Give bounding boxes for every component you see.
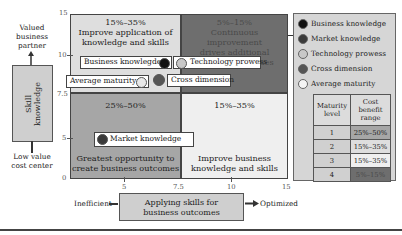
legend-label: Cross dimension <box>311 64 372 73</box>
legend-dot-icon <box>298 64 308 74</box>
x-axis-right-label: Optimized <box>260 199 298 208</box>
range-cell: 5%–15% <box>351 168 391 182</box>
point-label: Market knowledge <box>110 134 181 143</box>
x-box-line-1: Applying skills for <box>145 198 218 207</box>
x-tick-mark <box>124 177 125 182</box>
skill-knowledge-box: Skill knowledge <box>12 65 53 142</box>
arrow-up-icon <box>27 51 35 66</box>
x-tick: 15 <box>282 183 291 191</box>
range-cell: 25%–50% <box>351 126 391 140</box>
point-label: Business knowlegde <box>84 57 161 66</box>
maturity-level-cell: 3 <box>314 154 351 168</box>
y-axis-bottom-label: Low value cost center <box>4 152 60 170</box>
range-cell: 15%–35% <box>351 140 391 154</box>
header-text: range <box>351 114 390 122</box>
bottom-divider <box>0 229 402 231</box>
point-average-maturity: Average maturity <box>66 75 149 88</box>
y-top-line-2: business <box>6 32 58 41</box>
y-tick: 0 <box>62 174 66 182</box>
point-market-knowledge: Market knowledge <box>94 132 194 147</box>
x-tick: 7.5 <box>173 183 184 191</box>
y-bottom-line-1: Low value <box>4 152 60 161</box>
skill-knowledge-label: Skill knowledge <box>24 82 42 126</box>
y-top-line-1: Valued <box>6 23 58 32</box>
quadrant-text: Continuous improvement <box>182 27 287 47</box>
average-maturity-dot <box>136 77 147 88</box>
legend-dot-icon <box>298 34 308 44</box>
legend-label: Technology prowess <box>311 49 386 58</box>
point-business-knowledge: Business knowlegde <box>80 56 172 69</box>
quadrant-text: knowledge and skills <box>182 163 287 173</box>
maturity-matrix: 15%–35% Improve application of knowledge… <box>70 14 288 179</box>
header-text: Cost <box>351 98 390 106</box>
legend-item-business-knowledge: Business knowledge <box>298 18 386 29</box>
cross-dimension-dot <box>153 74 165 86</box>
y-bottom-line-2: cost center <box>4 161 60 170</box>
maturity-level-cell: 2 <box>314 140 351 154</box>
business-knowledge-dot <box>159 58 170 69</box>
header-cost-benefit: Cost benefit range <box>351 95 391 126</box>
y-tick: 15 <box>59 9 68 17</box>
legend-label: Average maturity <box>311 79 375 88</box>
skill-label-1: Skill <box>24 82 33 126</box>
table-row: 4 5%–15% <box>314 168 391 182</box>
arrow-right-icon <box>245 199 259 208</box>
legend-dot-icon <box>298 19 308 29</box>
legend-item-market-knowledge: Market knowledge <box>298 33 380 44</box>
y-tick-mark <box>67 55 73 56</box>
point-cross-dimension: Cross dimension <box>167 74 231 87</box>
quadrant-text: knowledge and skills <box>71 37 180 47</box>
point-label: Cross dimension <box>171 75 234 84</box>
point-label: Average maturity <box>70 76 136 85</box>
point-label: Technology prowess <box>190 57 267 66</box>
y-tick: 5 <box>62 134 66 142</box>
quadrant-text: Improve application of <box>71 27 180 37</box>
point-technology-prowess: Technology prowess <box>173 56 261 69</box>
maturity-level-cell: 4 <box>314 168 351 182</box>
quadrant-range: 5%–15% <box>182 17 287 27</box>
header-maturity-level: Maturity level <box>314 95 351 126</box>
quadrant-range: 15%–35% <box>182 100 287 110</box>
legend-label: Market knowledge <box>311 34 380 43</box>
y-tick: 7.5 <box>57 90 68 98</box>
legend-item-technology-prowess: Technology prowess <box>298 48 386 59</box>
quadrant-range: 15%–35% <box>71 17 180 27</box>
range-cell: 15%–35% <box>351 154 391 168</box>
quadrant-bottom-right: 15%–35% Improve business knowledge and s… <box>181 93 288 179</box>
x-tick-mark <box>231 177 232 182</box>
skill-label-2: knowledge <box>33 82 42 126</box>
maturity-level-cell: 1 <box>314 126 351 140</box>
table-row: 3 15%–35% <box>314 154 391 168</box>
legend-label: Business knowledge <box>311 19 386 28</box>
legend-item-cross-dimension: Cross dimension <box>298 63 372 74</box>
legend-dot-icon <box>298 79 308 89</box>
legend-dot-icon <box>298 49 308 59</box>
header-text: benefit <box>351 106 390 114</box>
y-tick: 10 <box>58 51 67 59</box>
x-tick: 10 <box>227 183 236 191</box>
quadrant-text: create business outcomes <box>71 163 180 173</box>
x-tick: 5 <box>122 183 126 191</box>
market-knowledge-dot <box>97 134 108 145</box>
table-row: 2 15%–35% <box>314 140 391 154</box>
applying-skills-box: Applying skills for business outcomes <box>119 193 244 221</box>
y-top-line-3: partner <box>6 41 58 50</box>
header-text: Maturity <box>314 102 350 110</box>
legend: Business knowledge Market knowledge Tech… <box>293 13 396 181</box>
x-axis-left-line <box>109 203 118 205</box>
maturity-table: Maturity level Cost benefit range 1 25%–… <box>313 94 391 182</box>
table-row: 1 25%–50% <box>314 126 391 140</box>
quadrant-text: Improve business <box>182 153 287 163</box>
y-tick-mark <box>67 138 73 139</box>
quadrant-text: Greatest opportunity to <box>71 153 180 163</box>
x-axis-left-label: Inefficient <box>74 199 112 208</box>
header-text: level <box>314 110 350 118</box>
quadrant-range: 25%–50% <box>71 100 180 110</box>
legend-item-average-maturity: Average maturity <box>298 78 375 89</box>
x-box-line-2: business outcomes <box>143 208 219 217</box>
y-axis-top-label: Valued business partner <box>6 23 58 50</box>
technology-prowess-dot <box>176 58 187 69</box>
